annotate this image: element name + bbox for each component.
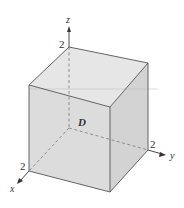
z-arrow-icon xyxy=(67,26,71,32)
z-axis-label: z xyxy=(65,14,70,25)
x-tick-label: 2 xyxy=(20,160,26,172)
region-label: D xyxy=(77,116,86,128)
x-axis xyxy=(20,171,29,181)
y-tick-label: 2 xyxy=(150,138,156,150)
cube-diagram: z 2 y 2 x 2 D xyxy=(0,0,184,208)
y-axis-label: y xyxy=(169,150,175,161)
y-arrow-icon xyxy=(159,152,166,157)
x-axis-label: x xyxy=(9,183,15,194)
z-tick-label: 2 xyxy=(59,38,65,50)
